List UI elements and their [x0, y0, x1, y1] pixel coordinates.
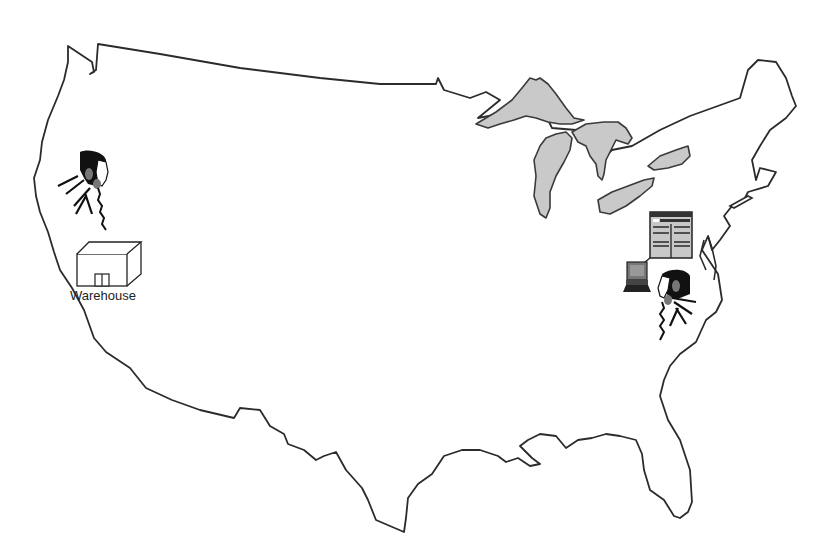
- us-map: [0, 0, 832, 550]
- spreadsheet-document-icon: [650, 212, 692, 258]
- warehouse-label: Warehouse: [70, 288, 136, 303]
- computer-terminal-icon: [623, 262, 651, 292]
